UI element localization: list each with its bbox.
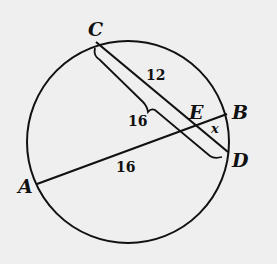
label-e: E [188,101,204,123]
label-d: D [231,149,249,171]
measure-ce: 12 [146,67,165,83]
circle-diagram: C E B D A 12 16 16 x [0,0,277,264]
label-b: B [231,101,248,123]
chord-cd [96,42,228,152]
measure-ae: 16 [116,159,135,175]
circle [27,41,229,243]
measure-eb: x [210,121,219,136]
measure-cd: 16 [128,113,147,129]
label-c: C [88,18,103,40]
label-a: A [16,175,33,197]
